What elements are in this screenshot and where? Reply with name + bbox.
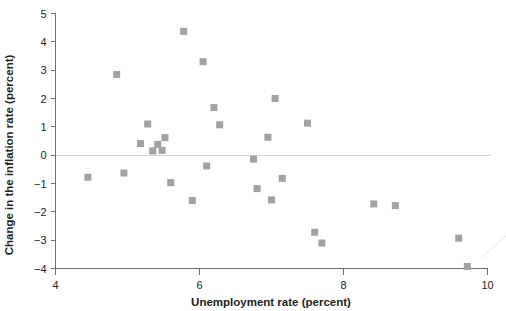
- y-tick-label: −4: [34, 263, 47, 275]
- data-point-marker: [264, 134, 271, 141]
- y-tick-label: −3: [34, 234, 47, 246]
- data-point-marker: [318, 240, 325, 247]
- y-axis-title: Change in the inflation rate (percent): [3, 55, 15, 256]
- data-point-marker: [154, 141, 161, 148]
- data-point-marker: [167, 179, 174, 186]
- data-point-marker: [464, 263, 471, 270]
- data-point-marker: [159, 147, 166, 154]
- data-point-marker: [137, 140, 144, 147]
- data-point-marker: [304, 120, 311, 127]
- x-tick-label: 8: [340, 279, 346, 291]
- data-point-marker: [189, 197, 196, 204]
- y-tick-label: 5: [40, 8, 46, 20]
- data-point-marker: [254, 185, 261, 192]
- data-point-marker: [149, 147, 156, 154]
- y-tick-label: 2: [40, 93, 46, 105]
- data-point-marker: [268, 196, 275, 203]
- y-tick-label: 4: [40, 36, 46, 48]
- y-tick-label: 0: [40, 149, 46, 161]
- chart-figure: −4−3−2−1012345 46810 Unemployment rate (…: [0, 0, 506, 311]
- data-point-marker: [455, 235, 462, 242]
- data-point-marker: [120, 170, 127, 177]
- y-tick-label: −2: [34, 206, 47, 218]
- data-point-marker: [250, 156, 257, 163]
- y-tick-label: 1: [40, 121, 46, 133]
- data-point-marker: [210, 104, 217, 111]
- data-point-marker: [144, 121, 151, 128]
- x-axis-title: Unemployment rate (percent): [191, 296, 351, 308]
- x-tick-label: 4: [52, 279, 58, 291]
- data-point-marker: [84, 174, 91, 181]
- data-point-marker: [216, 121, 223, 128]
- scatter-plot: −4−3−2−1012345 46810 Unemployment rate (…: [0, 0, 506, 311]
- y-tick-label: 3: [40, 64, 46, 76]
- data-point-marker: [113, 71, 120, 78]
- data-point-marker: [161, 134, 168, 141]
- data-point-marker: [272, 95, 279, 102]
- data-point-marker: [392, 202, 399, 209]
- x-tick-label: 6: [196, 279, 202, 291]
- data-point-marker: [203, 162, 210, 169]
- data-point-marker: [279, 175, 286, 182]
- x-tick-label: 10: [481, 279, 493, 291]
- y-tick-label: −1: [34, 178, 47, 190]
- data-point-marker: [180, 28, 187, 35]
- data-point-marker: [370, 200, 377, 207]
- data-point-marker: [200, 58, 207, 65]
- data-point-marker: [311, 229, 318, 236]
